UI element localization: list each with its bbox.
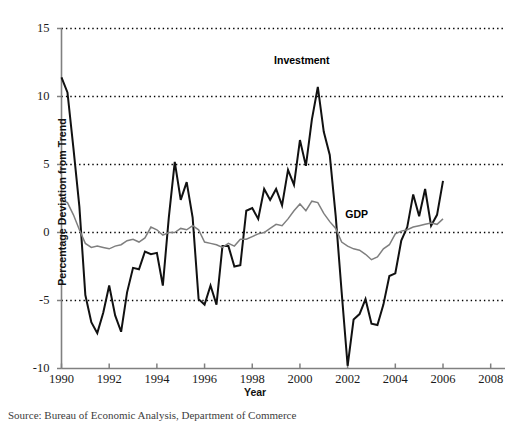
- y-tick-label: 5: [16, 157, 50, 172]
- series-line-investment: [62, 77, 444, 365]
- y-tick-label: -5: [16, 293, 50, 308]
- x-tick-label: 1996: [180, 372, 230, 387]
- axis-ticks: [57, 29, 491, 369]
- x-axis-title: Year: [244, 386, 266, 398]
- series-label-investment: Investment: [274, 54, 329, 66]
- x-tick-label: 1992: [84, 372, 134, 387]
- y-tick-label: 0: [16, 225, 50, 240]
- y-tick-label: 10: [16, 89, 50, 104]
- x-tick-label: 2006: [418, 372, 468, 387]
- series-label-gdp: GDP: [345, 208, 368, 220]
- x-tick-label: 1994: [132, 372, 182, 387]
- data-series: [62, 77, 444, 365]
- x-tick-label: 2000: [275, 372, 325, 387]
- figure-caption: Source: Bureau of Economic Analysis, Dep…: [8, 409, 296, 421]
- gridlines: [62, 29, 506, 301]
- x-tick-label: 1990: [37, 372, 87, 387]
- x-tick-label: 1998: [227, 372, 277, 387]
- y-tick-label: 15: [16, 21, 50, 36]
- x-tick-label: 2004: [370, 372, 420, 387]
- x-tick-label: 2002: [323, 372, 373, 387]
- y-axis-title: Percentage Deviation from Trend: [56, 82, 68, 322]
- x-tick-label: 2008: [466, 372, 516, 387]
